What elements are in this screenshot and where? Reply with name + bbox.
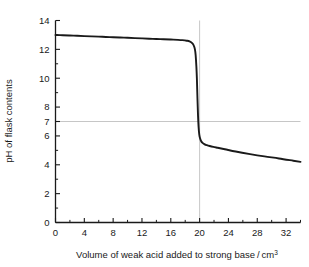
y-tick-label: 8 — [44, 101, 49, 112]
y-tick-label: 7 — [44, 116, 49, 127]
x-axis-title-superscript: 3 — [274, 249, 278, 256]
y-axis-title: pH of flask contents — [3, 79, 14, 163]
chart-figure: 048121620242832 024678101214 Volume of w… — [0, 0, 309, 267]
x-tick-label: 28 — [252, 227, 263, 238]
x-tick-label: 12 — [137, 227, 148, 238]
x-tick-label: 20 — [194, 227, 205, 238]
y-tick-label: 2 — [44, 188, 49, 199]
y-tick-label: 10 — [39, 73, 50, 84]
y-tick-label: 12 — [39, 44, 50, 55]
x-tick-label: 0 — [53, 227, 58, 238]
x-tick-label: 4 — [82, 227, 87, 238]
x-tick-label: 24 — [223, 227, 234, 238]
y-tick-label: 14 — [39, 15, 50, 26]
titration-curve-chart: 048121620242832 024678101214 Volume of w… — [0, 0, 309, 267]
y-tick-label: 4 — [44, 159, 49, 170]
y-tick-label: 6 — [44, 130, 49, 141]
x-axis-title-text: Volume of weak acid added to strong base… — [76, 249, 274, 260]
x-tick-label: 8 — [110, 227, 115, 238]
x-tick-label: 32 — [281, 227, 292, 238]
x-tick-label: 16 — [166, 227, 177, 238]
x-axis-title: Volume of weak acid added to strong base… — [76, 249, 278, 261]
y-tick-label: 0 — [44, 217, 49, 228]
